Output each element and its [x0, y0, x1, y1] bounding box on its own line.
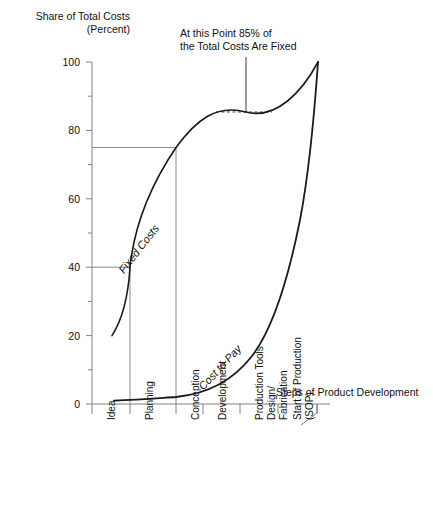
callout-line-2: the Total Costs Are Fixed — [180, 40, 297, 52]
x-tick-label-start-of-production: Start of Production — [292, 337, 304, 420]
x-tick-label-conception: Conception — [190, 369, 202, 420]
y-tick-label-0: 0 — [54, 398, 80, 410]
y-axis-minor-ticks — [88, 96, 92, 370]
y-axis-title-main: Share of Total Costs — [36, 10, 130, 22]
x-tick-label-idea: Idea — [106, 401, 118, 420]
x-tick-label-production-tools-l2: Design/ — [266, 386, 278, 420]
fixed-share-callout-text: At this Point 85% ofthe Total Costs Are … — [180, 27, 340, 53]
y-tick-label-20: 20 — [54, 330, 80, 342]
y-tick-label-80: 80 — [54, 124, 80, 136]
chart-figure: Share of Total Costs(Percent) At this Po… — [0, 0, 433, 520]
y-axis-title: Share of Total Costs(Percent) — [10, 10, 130, 36]
callout-line-1: At this Point 85% of — [180, 27, 272, 39]
x-tick-label-production-tools-l3: Fabrication — [278, 371, 290, 420]
y-tick-label-100: 100 — [54, 56, 80, 68]
y-tick-label-60: 60 — [54, 193, 80, 205]
x-tick-label-production-tools-l1: Production Tools — [254, 346, 265, 420]
x-tick-label-start-of-production-l2: (SOP) — [304, 392, 316, 420]
chart-canvas — [0, 0, 433, 520]
x-tick-label-production-tools: Production Tools — [254, 346, 266, 420]
y-axis-title-unit: (Percent) — [87, 23, 130, 35]
x-tick-label-planning: Planning — [144, 381, 156, 420]
y-tick-label-40: 40 — [54, 261, 80, 273]
fixed-costs-curve — [112, 62, 318, 336]
